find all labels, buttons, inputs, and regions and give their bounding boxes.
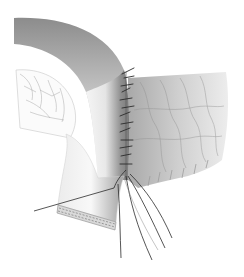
mesentery [16,70,76,138]
illustration-canvas [0,0,244,277]
textured-tissue [128,72,228,188]
surgical-illustration [0,0,244,277]
